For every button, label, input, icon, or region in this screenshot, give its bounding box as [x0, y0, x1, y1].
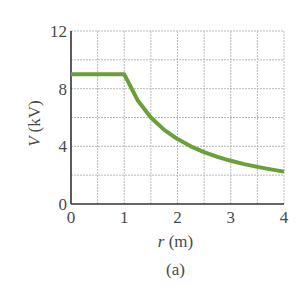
x-tick-label: 0	[67, 208, 76, 227]
y-tick-label: 8	[59, 80, 68, 99]
x-tick-label: 3	[227, 208, 236, 227]
x-axis-label: r (m)	[158, 232, 193, 251]
x-tick-label: 1	[120, 208, 129, 227]
figure-caption: (a)	[166, 260, 185, 279]
y-axis-label: V (kV)	[25, 100, 44, 146]
potential-vs-radius-chart: 0481201234r (m)V (kV)(a)	[0, 0, 297, 294]
y-tick-label: 12	[50, 22, 67, 41]
x-tick-label: 2	[173, 208, 182, 227]
y-tick-label: 0	[59, 195, 68, 214]
x-tick-label: 4	[280, 208, 289, 227]
y-tick-label: 4	[59, 137, 68, 156]
